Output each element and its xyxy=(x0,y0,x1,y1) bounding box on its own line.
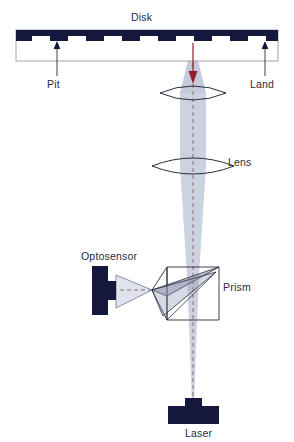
label-land: Land xyxy=(250,78,274,90)
laser-body xyxy=(168,406,219,424)
label-disk: Disk xyxy=(131,11,152,23)
label-optosensor: Optosensor xyxy=(81,250,137,262)
reflected-beam-to-optosensor xyxy=(116,275,152,308)
label-prism: Prism xyxy=(223,281,251,293)
prism-group xyxy=(152,267,219,320)
label-lens: Lens xyxy=(228,156,252,168)
optosensor-body xyxy=(92,266,116,315)
label-pit: Pit xyxy=(47,78,60,90)
laser-emitter-tab xyxy=(185,398,202,407)
optical-disk-diagram: Disk Pit Land Lens Optosensor Prism Lase… xyxy=(0,0,294,442)
optics-illustration xyxy=(0,0,294,442)
label-laser: Laser xyxy=(185,427,212,439)
laser-group xyxy=(168,398,219,424)
